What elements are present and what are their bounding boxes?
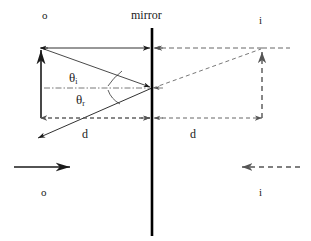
virtual-ray-extension: [153, 49, 261, 88]
object-label-top: o: [42, 10, 48, 21]
angle-arc-incident: [108, 71, 122, 86]
theta-r-subscript: r: [82, 99, 85, 108]
legend-image-label: i: [259, 187, 262, 198]
mirror-label: mirror: [131, 9, 162, 21]
mirror-reflection-diagram: o mirror i θi θr d d o i: [0, 0, 311, 241]
reflected-ray: [38, 88, 152, 138]
angle-of-reflection-label: θr: [76, 93, 85, 106]
legend-object-label: o: [41, 187, 47, 198]
image-distance-label: d: [190, 128, 196, 140]
diagram-canvas: [0, 0, 311, 241]
image-label-top: i: [259, 15, 262, 26]
object-distance-label: d: [82, 128, 88, 140]
angle-of-incidence-label: θi: [69, 71, 77, 84]
angle-arc-reflected: [108, 90, 120, 104]
incident-ray: [41, 48, 150, 87]
